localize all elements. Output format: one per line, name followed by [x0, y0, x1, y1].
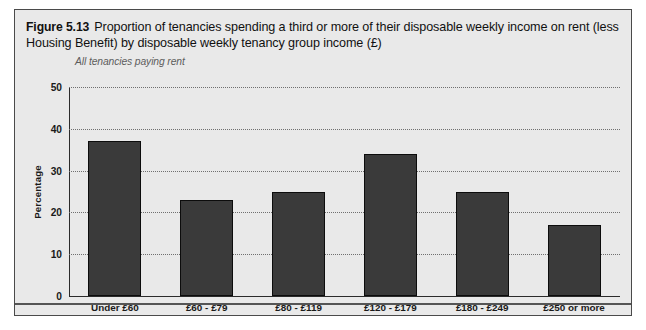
bar	[548, 225, 601, 296]
page-title: Proportion of tenancies spending a third…	[26, 20, 619, 50]
bar	[272, 192, 325, 297]
y-axis-tick-label: 40	[51, 123, 62, 134]
y-axis-tick-label: 10	[51, 249, 62, 260]
gridline	[69, 129, 620, 130]
y-axis-tick-label: 20	[51, 207, 62, 218]
y-axis-tick-label: 50	[51, 82, 62, 93]
x-axis-line	[69, 296, 620, 297]
plot-area	[69, 87, 620, 296]
bar	[456, 192, 509, 297]
figure-header: Figure 5.13Proportion of tenancies spend…	[26, 20, 621, 67]
gridline	[69, 212, 620, 213]
gridline	[69, 171, 620, 172]
figure-panel: Figure 5.13Proportion of tenancies spend…	[14, 9, 632, 316]
bar	[88, 141, 141, 296]
gridline	[69, 254, 620, 255]
y-axis-tick-label: 0	[56, 291, 62, 302]
y-axis-tick-label: 30	[51, 165, 62, 176]
figure-heading: Figure 5.13Proportion of tenancies spend…	[26, 20, 621, 51]
figure-subtitle: All tenancies paying rent	[75, 56, 621, 67]
figure-number: Figure 5.13	[26, 20, 89, 34]
bar	[180, 200, 233, 296]
gridline	[69, 87, 620, 88]
panel-bottom-rule	[15, 303, 631, 305]
bar	[364, 154, 417, 296]
y-axis-title: Percentage	[32, 165, 43, 219]
